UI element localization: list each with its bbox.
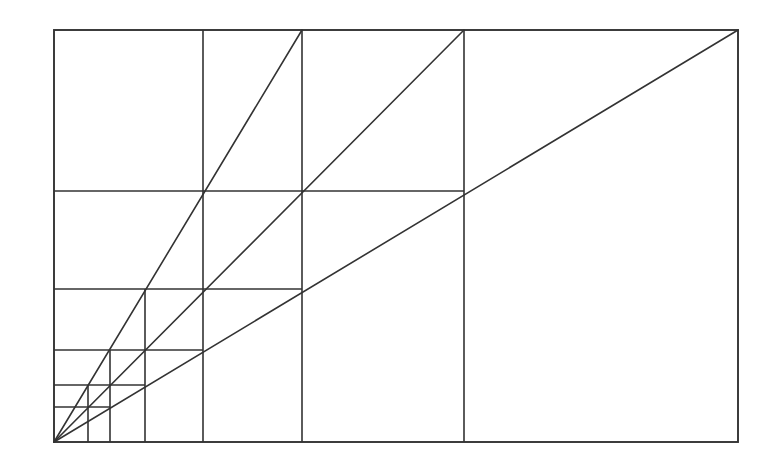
nested-rectangles-diagram (0, 0, 777, 472)
background (0, 0, 777, 472)
